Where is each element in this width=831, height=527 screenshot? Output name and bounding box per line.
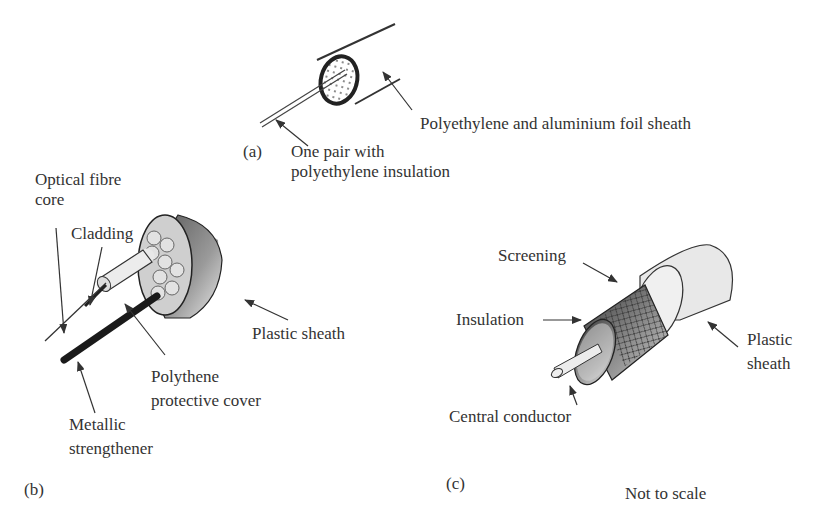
label-strengthener-line2: strengthener [69, 439, 153, 459]
label-plastic-sheath-c-line1: Plastic [747, 330, 792, 350]
panel-b-tag: (b) [24, 480, 44, 500]
label-fibre-core-line1: Optical fibre [35, 170, 121, 190]
scale-note: Not to scale [625, 484, 706, 504]
label-protective-cover-line2: protective cover [151, 391, 261, 411]
panel-a-tag: (a) [243, 142, 262, 162]
label-screening: Screening [498, 246, 566, 266]
label-pair-line2: polyethylene insulation [291, 162, 450, 182]
twisted-pair-cable [260, 24, 412, 146]
label-cladding: Cladding [71, 224, 133, 244]
label-fibre-core-line2: core [35, 190, 64, 210]
label-strengthener-line1: Metallic [69, 415, 126, 435]
label-foil-sheath: Polyethylene and aluminium foil sheath [420, 114, 691, 134]
label-pair-line1: One pair with [291, 142, 384, 162]
label-central-conductor: Central conductor [449, 407, 571, 427]
label-plastic-sheath-b: Plastic sheath [252, 324, 345, 344]
label-insulation: Insulation [456, 310, 524, 330]
label-plastic-sheath-c-line2: sheath [747, 354, 790, 374]
label-protective-cover-line1: Polythene [151, 367, 219, 387]
coaxial-cable [543, 245, 738, 405]
panel-c-tag: (c) [446, 474, 465, 494]
